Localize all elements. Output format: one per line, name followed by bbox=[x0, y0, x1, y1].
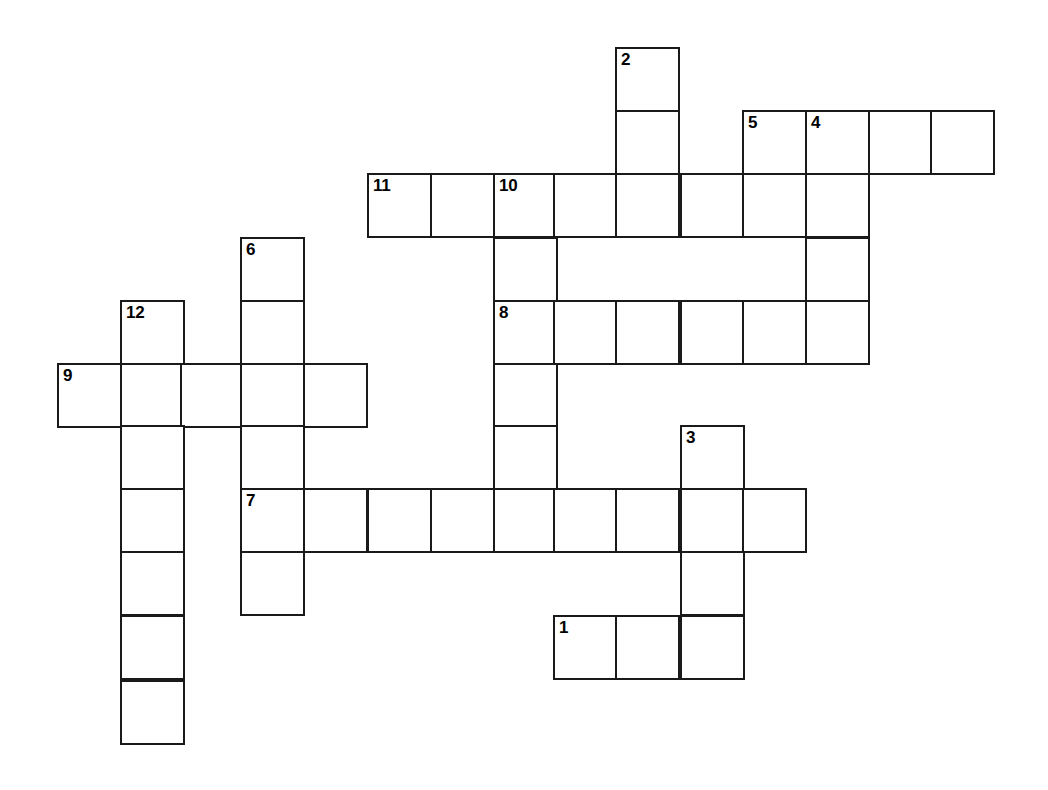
crossword-cell[interactable]: 2 bbox=[615, 47, 680, 112]
crossword-cell[interactable]: 1 bbox=[553, 615, 618, 680]
crossword-cell[interactable] bbox=[120, 363, 185, 428]
cell-number: 7 bbox=[246, 491, 255, 510]
crossword-cell[interactable] bbox=[240, 425, 305, 490]
crossword-cell[interactable] bbox=[742, 488, 807, 553]
crossword-cell[interactable] bbox=[680, 551, 745, 616]
crossword-cell[interactable] bbox=[742, 300, 807, 365]
crossword-cell[interactable]: 3 bbox=[680, 425, 745, 490]
crossword-cell[interactable] bbox=[120, 680, 185, 745]
cell-number: 2 bbox=[621, 50, 630, 69]
crossword-cell[interactable] bbox=[430, 488, 495, 553]
crossword-cell[interactable]: 5 bbox=[742, 110, 807, 175]
crossword-cell[interactable] bbox=[680, 300, 745, 365]
crossword-cell[interactable] bbox=[930, 110, 995, 175]
crossword-cell[interactable] bbox=[240, 551, 305, 616]
crossword-cell[interactable] bbox=[805, 173, 870, 238]
crossword-cell[interactable] bbox=[615, 110, 680, 175]
crossword-cell[interactable]: 11 bbox=[367, 173, 432, 238]
crossword-cell[interactable] bbox=[240, 300, 305, 365]
cell-number: 12 bbox=[126, 303, 144, 322]
crossword-cell[interactable]: 4 bbox=[805, 110, 870, 175]
crossword-cell[interactable] bbox=[120, 551, 185, 616]
crossword-cell[interactable]: 8 bbox=[493, 300, 558, 365]
crossword-cell[interactable]: 12 bbox=[120, 300, 185, 365]
crossword-cell[interactable] bbox=[553, 300, 618, 365]
crossword-cell[interactable] bbox=[805, 300, 870, 365]
crossword-cell[interactable] bbox=[493, 363, 558, 428]
crossword-cell[interactable] bbox=[805, 237, 870, 302]
cell-number: 5 bbox=[748, 113, 757, 132]
crossword-cell[interactable] bbox=[680, 173, 745, 238]
crossword-cell[interactable] bbox=[180, 363, 245, 428]
cell-number: 9 bbox=[63, 366, 72, 385]
cell-number: 6 bbox=[246, 240, 255, 259]
crossword-cell[interactable] bbox=[615, 615, 680, 680]
crossword-cell[interactable] bbox=[742, 173, 807, 238]
crossword-grid: 254111061289371 bbox=[0, 0, 1048, 790]
crossword-cell[interactable]: 10 bbox=[493, 173, 558, 238]
cell-number: 4 bbox=[811, 113, 820, 132]
crossword-cell[interactable] bbox=[493, 237, 558, 302]
crossword-cell[interactable] bbox=[303, 363, 368, 428]
cell-number: 1 bbox=[559, 618, 568, 637]
crossword-cell[interactable] bbox=[680, 615, 745, 680]
crossword-cell[interactable] bbox=[367, 488, 432, 553]
crossword-cell[interactable]: 7 bbox=[240, 488, 305, 553]
crossword-cell[interactable] bbox=[868, 110, 933, 175]
crossword-cell[interactable] bbox=[303, 488, 368, 553]
crossword-cell[interactable] bbox=[553, 488, 618, 553]
crossword-cell[interactable] bbox=[430, 173, 495, 238]
crossword-cell[interactable] bbox=[553, 173, 618, 238]
crossword-cell[interactable]: 6 bbox=[240, 237, 305, 302]
cell-number: 11 bbox=[373, 176, 390, 195]
crossword-cell[interactable] bbox=[615, 488, 680, 553]
crossword-cell[interactable] bbox=[493, 425, 558, 490]
crossword-cell[interactable] bbox=[680, 488, 745, 553]
crossword-cell[interactable] bbox=[120, 488, 185, 553]
cell-number: 8 bbox=[499, 303, 508, 322]
crossword-cell[interactable] bbox=[493, 488, 558, 553]
crossword-cell[interactable]: 9 bbox=[57, 363, 122, 428]
crossword-cell[interactable] bbox=[615, 300, 680, 365]
crossword-cell[interactable] bbox=[120, 425, 185, 490]
crossword-cell[interactable] bbox=[615, 173, 680, 238]
crossword-cell[interactable] bbox=[240, 363, 305, 428]
cell-number: 10 bbox=[499, 176, 517, 195]
cell-number: 3 bbox=[686, 428, 695, 447]
crossword-cell[interactable] bbox=[120, 615, 185, 680]
